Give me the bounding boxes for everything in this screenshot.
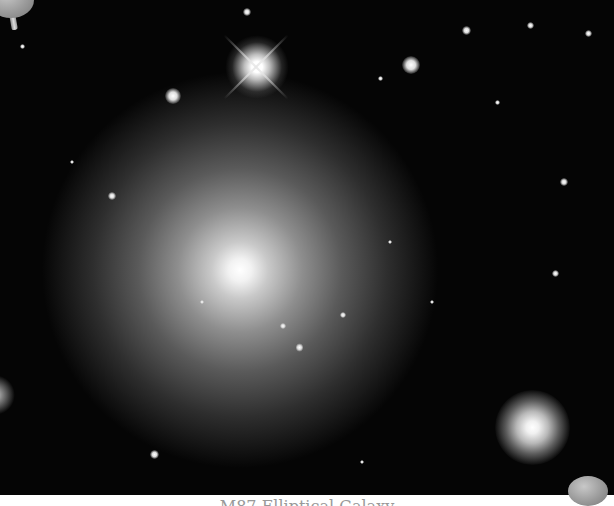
star xyxy=(430,300,434,304)
pushpin-icon xyxy=(568,476,614,506)
star xyxy=(378,76,383,81)
star xyxy=(243,8,251,16)
star xyxy=(585,30,592,37)
star xyxy=(150,450,159,459)
star xyxy=(296,343,303,352)
star xyxy=(462,26,471,35)
caption: M87 Elliptical Galaxy xyxy=(0,495,614,506)
star xyxy=(20,44,25,49)
star xyxy=(70,160,74,164)
star xyxy=(560,178,568,186)
star xyxy=(552,270,559,277)
star xyxy=(402,56,420,74)
star xyxy=(165,88,181,104)
bright-glow-object xyxy=(495,390,570,465)
pushpin-icon xyxy=(0,0,38,42)
galaxy-photo xyxy=(0,0,614,495)
star xyxy=(360,460,364,464)
edge-glow-object xyxy=(0,375,15,415)
star xyxy=(388,240,392,244)
star xyxy=(200,300,204,304)
star xyxy=(280,323,286,329)
star xyxy=(340,312,346,318)
elliptical-galaxy xyxy=(40,70,440,470)
star xyxy=(527,22,534,29)
star xyxy=(495,100,500,105)
star xyxy=(108,192,116,200)
